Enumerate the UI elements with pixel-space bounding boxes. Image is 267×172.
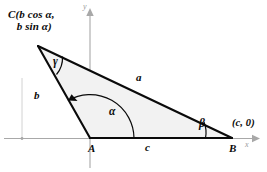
- geometry-figure: C(b cos α, b sin α) γ b a α β c A B (c, …: [0, 0, 267, 172]
- vertex-c-label-line2: b sin α): [8, 20, 55, 32]
- angle-label-gamma: γ: [53, 55, 58, 68]
- vertex-label-a: A: [88, 142, 95, 154]
- x-axis-tick-dot: [21, 137, 24, 140]
- side-label-a: a: [136, 71, 142, 83]
- vertex-label-b: B: [229, 142, 236, 154]
- vertex-c-label-line1: C(b cos α,: [8, 8, 55, 20]
- x-axis-arrowhead: [252, 135, 260, 142]
- angle-label-beta: β: [199, 117, 205, 130]
- angle-label-alpha: α: [109, 105, 115, 118]
- side-label-c: c: [145, 141, 150, 153]
- vertex-b-coordinate-label: (c, 0): [232, 117, 255, 129]
- side-label-b: b: [34, 89, 40, 101]
- x-axis-label: x: [245, 141, 249, 150]
- vertex-c-coordinate-label: C(b cos α, b sin α): [8, 8, 55, 33]
- y-axis-arrowhead: [86, 8, 93, 16]
- y-axis-label: y: [83, 3, 87, 12]
